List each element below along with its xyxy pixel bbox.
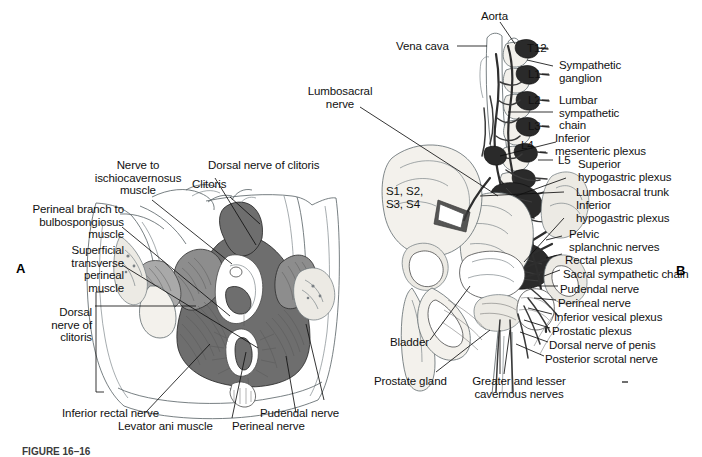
- label-pudendal-nerve-b: Pudendal nerve: [560, 283, 670, 296]
- label-bladder: Bladder: [390, 336, 450, 349]
- label-sympathetic-ganglion: Sympathetic ganglion: [559, 59, 651, 84]
- label-levator-ani-muscle: Levator ani muscle: [118, 420, 238, 433]
- label-vena-cava: Vena cava: [396, 40, 460, 53]
- panel-a-illustration: [87, 178, 339, 419]
- label-lumbosacral-nerve: Lumbosacral nerve: [292, 85, 388, 110]
- panel-a-leader-lines: [95, 178, 324, 418]
- label-inferior-vesical-plexus: Inferior vesical plexus: [554, 311, 684, 324]
- label-pudendal-nerve-a: Pudendal nerve: [260, 407, 360, 420]
- label-lumbosacral-trunk: Lumbosacral trunk: [576, 186, 696, 199]
- label-dorsal-nerve-of-clitoris-left: Dorsal nerve of clitoris: [22, 306, 92, 344]
- label-t12: T12: [527, 42, 557, 55]
- label-perineal-nerve-a: Perineal nerve: [232, 420, 328, 433]
- label-superior-hypogastric-plexus: Superior hypogastric plexus: [578, 158, 690, 183]
- label-posterior-scrotal-nerve: Posterior scrotal nerve: [545, 353, 685, 366]
- label-rectal-plexus: Rectal plexus: [565, 254, 665, 267]
- label-clitoris: Clitoris: [192, 178, 252, 191]
- label-perineal-nerve-b: Perineal nerve: [558, 297, 668, 310]
- label-superficial-transverse-perineal-muscle: Superficial transverse perineal muscle: [28, 244, 124, 294]
- label-lumbar-sympathetic-chain: Lumbar sympathetic chain: [559, 94, 639, 132]
- label-l2: L2: [528, 94, 552, 107]
- label-l1: L1: [528, 68, 552, 81]
- label-inferior-hypogastric-plexus: Inferior hypogastric plexus: [576, 199, 694, 224]
- label-inferior-rectal-nerve: Inferior rectal nerve: [62, 407, 182, 420]
- label-prostatic-plexus: Prostatic plexus: [552, 325, 662, 338]
- stray-dash-mark: [622, 381, 628, 383]
- label-l3: L3: [528, 120, 552, 133]
- figure-caption: FIGURE 16–16: [22, 446, 90, 457]
- label-pelvic-splanchnic-nerves: Pelvic splanchnic nerves: [569, 228, 679, 253]
- pelvic-splanchnic-nerves: [508, 232, 556, 280]
- label-sacral-roots: S1, S2, S3, S4: [386, 185, 450, 210]
- panel-b-letter: B: [676, 263, 685, 278]
- sympathetic-ganglia: [512, 40, 549, 189]
- panel-a-letter: A: [16, 261, 25, 276]
- label-nerve-to-ischiocavernosus-muscle: Nerve to ischiocavernosus muscle: [78, 159, 198, 197]
- label-greater-and-lesser-cavernous-nerves: Greater and lesser cavernous nerves: [458, 375, 580, 400]
- label-dorsal-nerve-of-penis: Dorsal nerve of penis: [549, 339, 679, 352]
- label-dorsal-nerve-of-clitoris-top: Dorsal nerve of clitoris: [208, 159, 348, 172]
- label-aorta: Aorta: [481, 10, 531, 23]
- label-l4: L4: [521, 139, 545, 152]
- vertebral-bodies: [500, 42, 531, 197]
- label-perineal-branch-to-bulbospongiosus-muscle: Perineal branch to bulbospongiosus muscl…: [8, 203, 124, 241]
- anatomy-figure: Nerve to ischiocavernosus muscle Dorsal …: [0, 0, 702, 457]
